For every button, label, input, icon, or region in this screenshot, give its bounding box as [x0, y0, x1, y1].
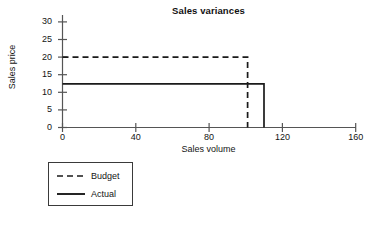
y-tick-label-5: 5 [30, 105, 52, 114]
legend-swatch-solid-icon [56, 188, 86, 200]
y-tick-label-25: 25 [30, 35, 52, 44]
y-tick-label-20: 20 [30, 53, 52, 62]
x-tick-label-40: 40 [116, 133, 156, 142]
y-tick-label-15: 15 [30, 70, 52, 79]
x-tick-label-120: 120 [262, 133, 302, 142]
y-tick-label-0: 0 [30, 123, 52, 132]
x-tick-label-0: 0 [43, 133, 83, 142]
x-axis-label: Sales volume [62, 144, 355, 154]
y-tick-label-30: 30 [30, 17, 52, 26]
x-tick-label-80: 80 [189, 133, 229, 142]
legend-label-actual: Actual [91, 190, 116, 199]
legend-item-budget: Budget [49, 167, 134, 185]
chart-figure: Sales variances 0 5 10 [0, 0, 380, 227]
y-axis-label: Sales price [7, 36, 17, 98]
x-tick-label-160: 160 [336, 133, 376, 142]
series-budget [63, 57, 248, 127]
legend-item-actual: Actual [49, 185, 134, 203]
legend-label-budget: Budget [91, 172, 120, 181]
chart-legend: Budget Actual [48, 162, 133, 206]
legend-swatch-dashed-icon [56, 170, 86, 182]
y-tick-label-10: 10 [30, 88, 52, 97]
series-actual [63, 84, 265, 128]
